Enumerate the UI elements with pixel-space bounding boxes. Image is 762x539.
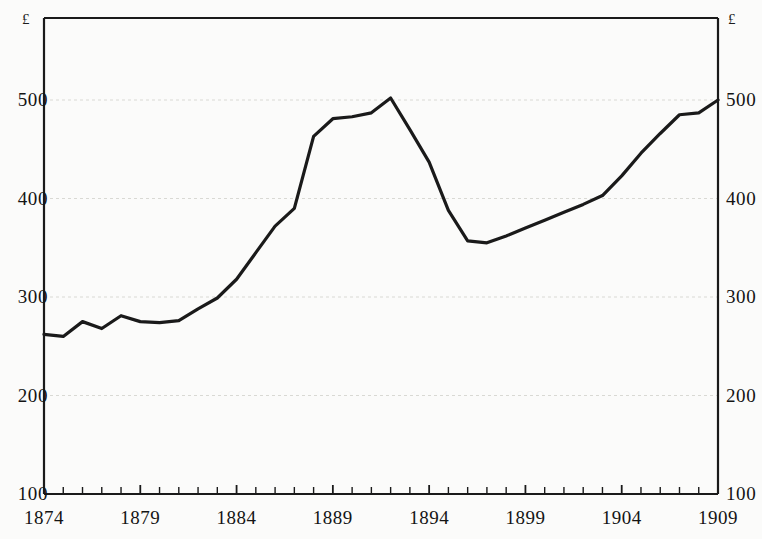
x-tick-label-1879: 1879	[120, 508, 160, 527]
y-tick-label-left-100: 100	[18, 484, 48, 503]
x-axis-ticks-group	[44, 485, 718, 494]
chart-container: £ £ 100200300400500 100200300400500 1874…	[0, 0, 762, 539]
y-tick-label-left-500: 500	[18, 90, 48, 109]
x-tick-label-1889: 1889	[313, 508, 353, 527]
y-tick-label-right-400: 400	[726, 189, 756, 208]
data-line-series-value	[44, 98, 718, 336]
x-tick-label-1884: 1884	[217, 508, 257, 527]
line-chart-plot	[0, 0, 762, 539]
x-tick-label-1904: 1904	[602, 508, 642, 527]
y-tick-label-right-500: 500	[726, 90, 756, 109]
y-tick-label-right-100: 100	[726, 484, 756, 503]
y-tick-label-left-200: 200	[18, 386, 48, 405]
x-tick-label-1899: 1899	[505, 508, 545, 527]
y-tick-label-right-200: 200	[726, 386, 756, 405]
x-tick-label-1894: 1894	[409, 508, 449, 527]
y-tick-label-right-300: 300	[726, 287, 756, 306]
gridlines-group	[44, 100, 718, 396]
y-axis-left-unit-label: £	[22, 11, 30, 28]
y-tick-label-left-300: 300	[18, 287, 48, 306]
x-tick-label-1874: 1874	[24, 508, 64, 527]
y-tick-label-left-400: 400	[18, 189, 48, 208]
axes-group	[44, 18, 718, 494]
y-axis-right-unit-label: £	[728, 11, 736, 28]
x-tick-label-1909: 1909	[698, 508, 738, 527]
